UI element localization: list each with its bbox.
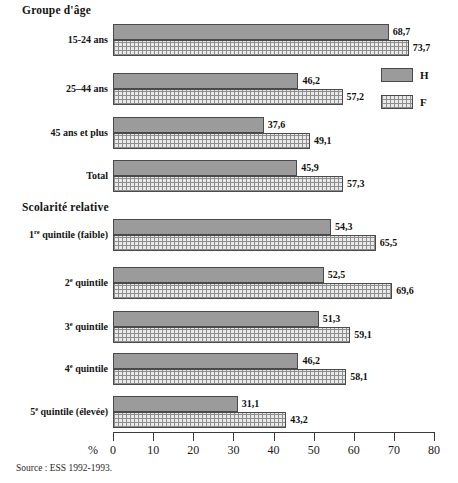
bar-f — [113, 176, 343, 192]
bar-h — [113, 396, 238, 412]
x-axis-tick — [274, 432, 275, 441]
legend-swatch-h-icon — [381, 68, 413, 82]
x-axis-tick-label: 30 — [218, 443, 248, 458]
x-axis-tick-label: 70 — [379, 443, 409, 458]
x-axis-tick — [434, 432, 435, 441]
x-axis-tick — [314, 432, 315, 441]
category-label: 5e quintile (élevée) — [4, 406, 108, 417]
bar-h — [113, 73, 298, 89]
category-label: 45 ans et plus — [4, 127, 108, 138]
category-label: 3e quintile — [4, 321, 108, 332]
bar-h — [113, 267, 324, 283]
bar-value-h: 31,1 — [242, 396, 260, 412]
bar-value-f: 43,2 — [290, 412, 308, 428]
bar-f — [113, 327, 350, 343]
x-axis-tick-label: 50 — [299, 443, 329, 458]
x-axis-tick — [394, 432, 395, 441]
x-axis-tick-label: 10 — [138, 443, 168, 458]
bar-h — [113, 24, 389, 40]
legend-label-f: F — [420, 95, 427, 109]
x-axis-tick — [153, 432, 154, 441]
bar-value-f: 57,2 — [347, 89, 365, 105]
bar-value-h: 54,3 — [335, 219, 353, 235]
axis-unit-label: % — [88, 443, 98, 458]
bar-f — [113, 412, 286, 428]
x-axis-tick-label: 0 — [98, 443, 128, 458]
bar-h — [113, 311, 319, 327]
bar-value-h: 45,9 — [301, 160, 319, 176]
bar-value-h: 51,3 — [323, 311, 341, 327]
bar-f — [113, 133, 310, 149]
category-label: 25–44 ans — [4, 83, 108, 94]
x-axis-tick — [193, 432, 194, 441]
source-note: Source : ESS 1992-1993. — [16, 463, 112, 473]
x-axis-tick-label: 20 — [178, 443, 208, 458]
category-label: 1re quintile (faible) — [4, 229, 108, 240]
bar-value-h: 46,2 — [302, 73, 320, 89]
category-label: 4e quintile — [4, 363, 108, 374]
bar-f — [113, 235, 376, 251]
bar-h — [113, 160, 297, 176]
section-heading-age: Groupe d'âge — [22, 4, 91, 16]
bar-value-f: 57,3 — [347, 176, 365, 192]
x-axis-tick — [113, 432, 114, 441]
bar-f — [113, 89, 343, 105]
bar-value-f: 69,6 — [396, 283, 414, 299]
legend-label-h: H — [420, 68, 429, 82]
x-axis-tick — [354, 432, 355, 441]
bar-h — [113, 353, 298, 369]
bar-value-f: 49,1 — [314, 133, 332, 149]
bar-h — [113, 219, 331, 235]
bar-value-f: 65,5 — [380, 235, 398, 251]
bar-f — [113, 369, 346, 385]
legend-swatch-f-icon — [381, 95, 413, 109]
category-label: 2e quintile — [4, 277, 108, 288]
bar-value-h: 52,5 — [328, 267, 346, 283]
bar-f — [113, 283, 392, 299]
x-axis-tick-label: 40 — [259, 443, 289, 458]
x-axis-tick-label: 60 — [339, 443, 369, 458]
bar-value-f: 59,1 — [354, 327, 372, 343]
bar-value-h: 68,7 — [393, 24, 411, 40]
category-label: Total — [4, 170, 108, 181]
x-axis-tick-label: 80 — [419, 443, 449, 458]
chart-figure: Groupe d'âge Scolarité relative 15-24 an… — [0, 0, 458, 483]
bar-value-h: 46,2 — [302, 353, 320, 369]
section-heading-education: Scolarité relative — [22, 201, 109, 213]
category-label: 15-24 ans — [4, 34, 108, 45]
x-axis: 01020304050607080 — [113, 432, 434, 442]
bar-value-h: 37,6 — [268, 117, 286, 133]
bar-value-f: 73,7 — [413, 40, 431, 56]
bar-value-f: 58,1 — [350, 369, 368, 385]
bar-h — [113, 117, 264, 133]
x-axis-tick — [233, 432, 234, 441]
bar-f — [113, 40, 409, 56]
